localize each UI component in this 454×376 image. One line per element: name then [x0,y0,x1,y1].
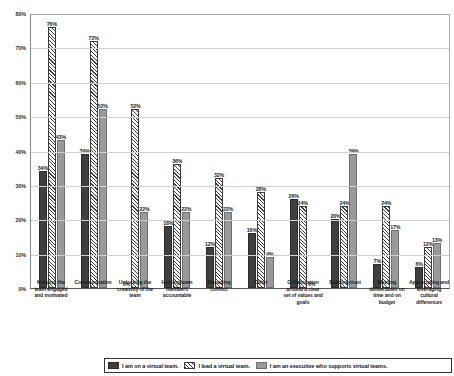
bar: 72% [90,41,98,289]
bar-value-label: 52% [98,103,108,110]
gridline [31,48,449,49]
x-axis-category-label: Keeping the team engaged and motivated [30,277,72,339]
bar-value-label: 24% [339,200,349,207]
x-axis-category-label: Communication [72,277,114,339]
bar-value-label: 52% [130,103,140,110]
bar-value-label: 43% [56,134,66,141]
bar: 36% [173,164,181,288]
bar: 52% [131,109,139,288]
y-axis: 0%10%20%30%40%50%60%70%80% [0,14,28,289]
y-axis-tick-label: 50% [16,114,27,120]
solid-dark-swatch-icon [108,362,119,369]
bar-value-label: 13% [432,237,442,244]
legend-item[interactable]: I am an executive who supports virtual t… [256,362,388,369]
gridline [31,83,449,84]
bar-value-label: 24% [298,200,308,207]
y-axis-tick-label: 10% [16,252,27,258]
legend-label: I lead a virtual team. [198,363,249,369]
bar-value-label: 36% [172,158,182,165]
x-axis-category-label: Other [240,277,282,339]
bar: 34% [39,171,47,288]
grouped-bar-chart: 0%10%20%30%40%50%60%70%80% 34%76%43%39%7… [0,0,454,376]
bar: 24% [340,206,348,289]
bar-value-label: 22% [223,206,233,213]
bar-value-label: 24% [381,200,391,207]
bar-value-label: 32% [214,172,224,179]
bar: 43% [57,140,65,288]
legend-item[interactable]: I lead a virtual team. [184,362,249,369]
plot-area: 34%76%43%39%72%52%0%52%22%18%36%22%12%32… [30,14,450,289]
legend-label: I am an executive who supports virtual t… [270,363,388,369]
y-axis-tick-label: 60% [16,80,27,86]
bar-value-label: 72% [89,35,99,42]
bar-value-label: 22% [181,206,191,213]
plot-wrapper: 0%10%20%30%40%50%60%70%80% 34%76%43%39%7… [0,14,454,304]
bar: 24% [299,206,307,289]
gridline [31,220,449,221]
y-axis-tick-label: 20% [16,217,27,223]
x-axis-category-label: Appreciating and leveraging cultural dif… [408,277,450,339]
chart-legend: I am on a virtual team.I lead a virtual … [104,358,452,373]
x-axis-category-labels: Keeping the team engaged and motivatedCo… [30,277,450,339]
bar: 76% [48,27,56,288]
bar: 26% [290,199,298,288]
bar-value-label: 22% [139,206,149,213]
legend-label: I am on a virtual team. [122,363,178,369]
y-axis-tick-label: 80% [16,11,27,17]
gridline [31,255,449,256]
x-axis-category-label: Building trust [324,277,366,339]
bar: 24% [382,206,390,289]
bar-value-label: 12% [205,241,215,248]
bar-value-label: 34% [38,165,48,172]
bar-value-label: 17% [390,224,400,231]
x-axis-category-label: Meeting deliverables on time and on budg… [366,277,408,339]
gridline [31,152,449,153]
bar-value-label: 7% [374,258,381,265]
legend-item[interactable]: I am on a virtual team. [108,362,178,369]
bar-value-label: 6% [415,261,422,268]
solid-gray-swatch-icon [256,362,267,369]
gridline [31,186,449,187]
y-axis-tick-label: 30% [16,183,27,189]
bar-value-label: 20% [330,213,340,220]
x-axis-category-label: Unlocking the creativity of the team [114,277,156,339]
x-axis-category-label: Holding team members accountable [156,277,198,339]
y-axis-tick-label: 40% [16,149,27,155]
y-axis-tick-label: 0% [18,286,26,292]
x-axis-category-label: Managing conflict [198,277,240,339]
bar-value-label: 16% [247,227,257,234]
bar-value-label: 76% [47,21,57,28]
bar: 28% [257,192,265,288]
gridline [31,117,449,118]
y-axis-tick-label: 70% [16,45,27,51]
x-axis-category-label: Collaboration around a clear set of valu… [282,277,324,339]
bar: 52% [99,109,107,288]
hatched-swatch-icon [184,362,195,369]
bar: 32% [215,178,223,288]
